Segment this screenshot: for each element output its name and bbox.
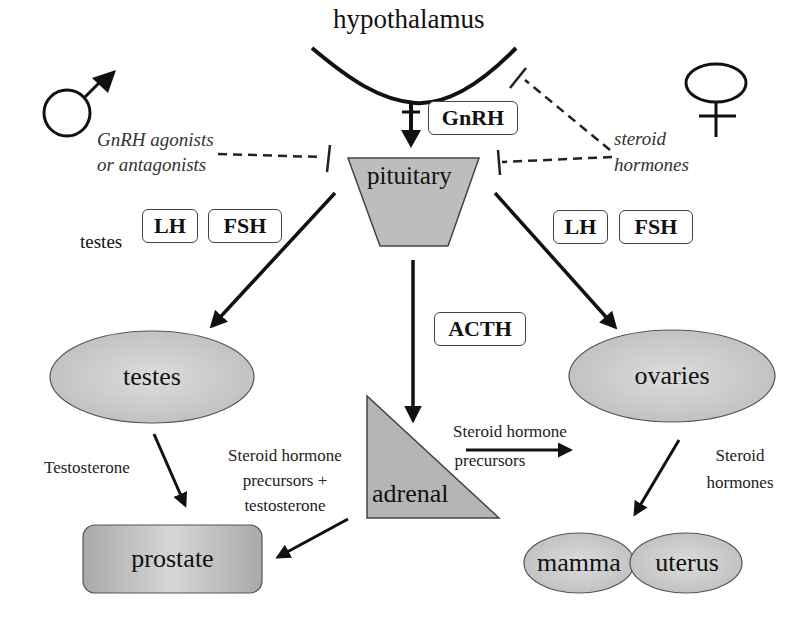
inhibit-steroids-hypothalamus bbox=[510, 68, 610, 150]
testosterone-label: Testosterone bbox=[44, 459, 130, 477]
hypothalamus-label: hypothalamus bbox=[333, 5, 484, 33]
gnrh-agonists-line2: or antagonists bbox=[97, 155, 206, 175]
adrenal-precursors-line2: precursors bbox=[430, 452, 550, 470]
gnrh-arrow bbox=[401, 103, 421, 148]
mamma-label: mamma bbox=[524, 545, 634, 581]
steroid-hormones-line2: hormones bbox=[614, 155, 689, 175]
hypothalamus-curve bbox=[312, 48, 516, 103]
testes-label: testes bbox=[50, 355, 254, 399]
ovary-steroids-line1: Steroid bbox=[690, 447, 790, 465]
ovaries-label: ovaries bbox=[569, 354, 775, 398]
arrow-adrenal-to-prostate bbox=[278, 519, 348, 557]
adrenal-label: adrenal bbox=[372, 480, 449, 507]
precursors-testosterone-line3: testosterone bbox=[210, 497, 360, 515]
ovary-steroids-line2: hormones bbox=[690, 474, 790, 492]
gnrh-agonists-line1: GnRH agonists bbox=[97, 130, 214, 150]
arrow-ovaries-to-mamma bbox=[635, 440, 679, 514]
acth-box: ACTH bbox=[434, 312, 526, 346]
adrenal-precursors-line1: Steroid hormone bbox=[435, 423, 585, 441]
testes-side-label: testes bbox=[80, 232, 122, 252]
fsh-right-box: FSH bbox=[619, 210, 693, 244]
female-symbol-icon bbox=[686, 64, 746, 137]
precursors-testosterone-line2: precursors + bbox=[210, 472, 360, 490]
steroid-hormones-line1: steroid bbox=[614, 129, 666, 149]
lh-left-box: LH bbox=[142, 209, 198, 243]
precursors-testosterone-line1: Steroid hormone bbox=[210, 447, 360, 465]
inhibit-steroids-pituitary bbox=[498, 150, 612, 175]
arrow-testes-to-prostate bbox=[154, 434, 185, 505]
prostate-label: prostate bbox=[83, 538, 262, 580]
gnrh-box: GnRH bbox=[428, 101, 518, 135]
fsh-left-box: FSH bbox=[208, 209, 282, 243]
male-symbol-icon bbox=[44, 70, 116, 136]
pituitary-label: pituitary bbox=[367, 163, 452, 189]
inhibit-agonists bbox=[218, 145, 330, 172]
lh-right-box: LH bbox=[553, 210, 608, 244]
diagram-canvas bbox=[0, 0, 811, 629]
uterus-label: uterus bbox=[632, 545, 742, 581]
